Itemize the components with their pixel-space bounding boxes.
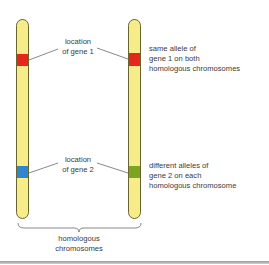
- chromosome-left: [17, 20, 29, 219]
- gene2-leader-left: [29, 163, 58, 173]
- gene1-note-line2: gene 1 on both: [149, 54, 200, 63]
- pair-label-line1: homologous: [58, 234, 100, 243]
- gene2-band-right: [129, 166, 140, 178]
- pair-label-line2: chromosomes: [55, 244, 103, 253]
- homologous-chromosomes-diagram: location of gene 1 location of gene 2 sa…: [0, 0, 269, 265]
- chromosome-left-body: [17, 20, 29, 219]
- chromosome-right: [129, 20, 141, 219]
- gene1-leader-right: [97, 48, 128, 59]
- pair-brace: [18, 223, 141, 232]
- chromosome-right-body: [129, 20, 141, 219]
- gene2-location-label-line1: location: [65, 155, 91, 164]
- gene2-note-line2: gene 2 on each: [149, 171, 201, 180]
- gene1-leader-left: [29, 49, 58, 60]
- gene1-note-line1: same allele of: [149, 44, 197, 53]
- gene2-leader-right: [97, 163, 128, 173]
- gene2-note-line3: homologous chromosome: [149, 181, 236, 190]
- gene2-note-line1: different alleles of: [149, 161, 209, 170]
- gene1-location-label-line2: of gene 1: [62, 47, 94, 56]
- gene1-note-line3: homologous chromosomes: [149, 64, 240, 73]
- bottom-rule: [0, 261, 269, 264]
- gene2-band-left: [17, 166, 28, 178]
- gene1-location-label-line1: location: [65, 37, 91, 46]
- gene2-location-label-line2: of gene 2: [62, 165, 94, 174]
- gene1-band-right: [129, 53, 140, 66]
- gene1-band-left: [17, 54, 28, 66]
